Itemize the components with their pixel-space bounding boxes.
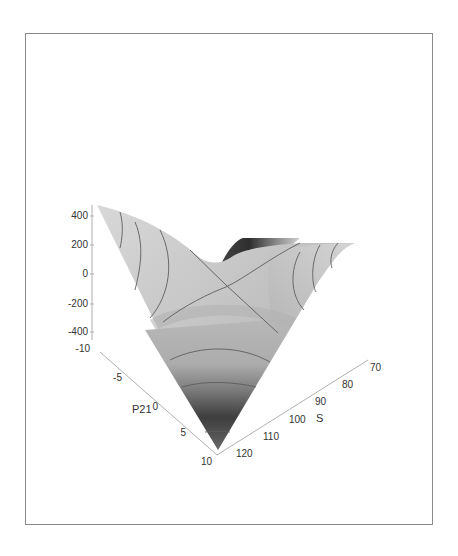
s-tick-label: 80: [342, 379, 354, 390]
s-tick-label: 100: [289, 414, 306, 425]
z-tick-label: 200: [71, 239, 88, 250]
s-tick-label: 70: [370, 362, 382, 373]
s-tick-label: 120: [236, 448, 253, 459]
p21-tick-label: -10: [76, 343, 91, 354]
z-tick-label: -400: [68, 326, 88, 337]
s-axis-title: S: [316, 412, 323, 424]
p21-axis-title: P21: [132, 403, 152, 415]
z-axis: 400 200 0 -200 -400: [68, 205, 94, 340]
z-tick-label: -200: [68, 298, 88, 309]
p21-tick-label: -5: [113, 372, 122, 383]
z-tick-label: 0: [82, 268, 88, 279]
p21-tick-label: 0: [152, 401, 158, 412]
p21-tick-label: 5: [180, 427, 186, 438]
z-tick-label: 400: [71, 210, 88, 221]
s-tick-label: 110: [263, 431, 279, 442]
s-tick-label: 90: [315, 396, 327, 407]
surface-plot: 400 200 0 -200 -400 -10 -5 0 5 10 P21 12…: [0, 0, 458, 556]
p21-tick-label: 10: [201, 456, 213, 467]
